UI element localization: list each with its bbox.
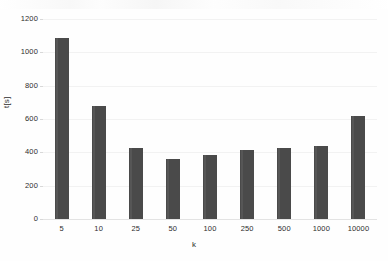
scan-artifact [0,0,388,9]
bar [203,155,217,219]
y-axis-tick-label: 0 [0,215,38,223]
bar [240,150,254,219]
x-axis-tick-label: 10000 [333,225,383,233]
gridline [43,219,377,220]
bar [55,38,69,219]
bar [92,106,106,219]
bar-chart-figure: t[s] 020040060080010001200 5102550100250… [0,0,388,261]
bar [166,159,180,219]
x-axis-title: k [0,240,388,249]
y-axis-tick-label: 200 [0,182,38,190]
y-axis-tick-label: 600 [0,115,38,123]
bar [314,146,328,219]
bar [277,148,291,219]
y-axis-tick-label: 1000 [0,48,38,56]
y-axis-tick-label: 400 [0,148,38,156]
bar [351,116,365,219]
y-axis-tick-label: 800 [0,82,38,90]
y-axis-title: t[s] [2,97,11,108]
bar [129,148,143,219]
y-axis-tick-label: 1200 [0,15,38,23]
bars-layer [43,19,377,219]
